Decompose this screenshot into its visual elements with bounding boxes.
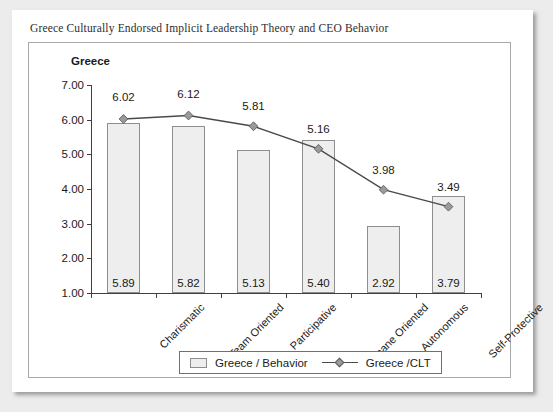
legend-bar-swatch-icon	[190, 358, 207, 368]
y-tick-label: 6.00	[62, 114, 84, 126]
clt-marker	[379, 185, 388, 194]
legend-label-clt: Greece /CLT	[366, 357, 431, 369]
y-tick-label: 1.00	[62, 287, 84, 299]
category-label: Participative	[287, 301, 338, 352]
y-tick-label: 2.00	[62, 252, 84, 264]
line-value-label: 3.98	[372, 164, 394, 176]
x-tick-mark	[286, 293, 287, 298]
line-value-label: 6.12	[177, 88, 199, 100]
chart-title: Greece	[71, 55, 110, 67]
x-tick-mark	[156, 293, 157, 298]
plot-area: 1.002.003.004.005.006.007.00 5.895.825.1…	[91, 85, 481, 293]
x-tick-mark	[91, 293, 92, 298]
y-tick-label: 5.00	[62, 148, 84, 160]
line-value-label: 5.16	[307, 123, 329, 135]
legend-label-behavior: Greece / Behavior	[215, 357, 308, 369]
clt-marker	[184, 111, 193, 120]
line-value-label: 5.81	[242, 100, 264, 112]
line-series	[91, 85, 481, 293]
clt-polyline	[124, 116, 449, 207]
clt-markers	[119, 111, 453, 211]
line-value-label: 6.02	[112, 91, 134, 103]
category-label: Charismatic	[157, 301, 207, 351]
y-tick-label: 7.00	[62, 79, 84, 91]
line-value-label: 3.49	[437, 181, 459, 193]
clt-marker	[444, 202, 453, 211]
clt-marker	[249, 122, 258, 131]
document-title: Greece Culturally Endorsed Implicit Lead…	[30, 22, 510, 34]
x-tick-mark	[481, 293, 482, 298]
y-tick-label: 4.00	[62, 183, 84, 195]
clt-marker	[314, 144, 323, 153]
legend-line-diamond-icon	[322, 358, 358, 368]
y-tick-label: 3.00	[62, 218, 84, 230]
document-card: Greece Culturally Endorsed Implicit Lead…	[12, 10, 533, 392]
page-background: Greece Culturally Endorsed Implicit Lead…	[0, 0, 553, 412]
x-tick-mark	[221, 293, 222, 298]
x-tick-mark	[351, 293, 352, 298]
category-label: Self-Protective	[485, 301, 544, 360]
x-tick-mark	[416, 293, 417, 298]
chart-legend: Greece / Behavior Greece /CLT	[179, 351, 442, 374]
clt-marker	[119, 115, 128, 124]
chart-container: Greece 1.002.003.004.005.006.007.00 5.89…	[28, 42, 511, 378]
